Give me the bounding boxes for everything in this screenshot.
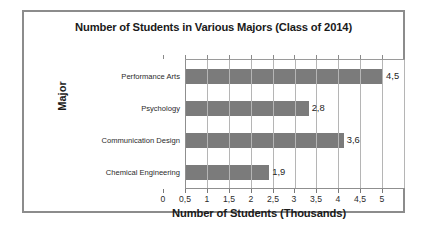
x-axis-tick-mark-top xyxy=(382,55,383,59)
gridline xyxy=(382,60,383,188)
x-axis-tick-mark xyxy=(338,189,339,193)
chart-frame: Number of Students in Various Majors (Cl… xyxy=(22,10,405,213)
x-axis-tick-label: 3 xyxy=(292,194,297,204)
bar xyxy=(186,165,269,180)
x-axis-tick-mark-top xyxy=(251,55,252,59)
gridline xyxy=(295,60,296,188)
y-axis-tick-label: Performance Arts xyxy=(66,72,180,81)
gridline xyxy=(360,60,361,188)
y-axis-tick-label: Communication Design xyxy=(66,136,180,145)
x-axis-tick-mark xyxy=(382,189,383,193)
gridline xyxy=(404,60,405,188)
x-axis-tick-label: 5 xyxy=(380,194,385,204)
bar xyxy=(186,69,383,84)
x-axis-tick-label: 4 xyxy=(336,194,341,204)
x-axis-tick-label: 1 xyxy=(205,194,210,204)
x-axis-tick-label: 1,5 xyxy=(223,194,235,204)
x-axis-tick-label: 0 xyxy=(161,194,166,204)
x-axis-tick-mark xyxy=(163,189,164,193)
x-axis-tick-label: 3,5 xyxy=(310,194,322,204)
gridline xyxy=(207,60,208,188)
x-axis-tick-mark xyxy=(273,189,274,193)
gridline xyxy=(316,60,317,188)
x-axis-tick-mark xyxy=(207,189,208,193)
y-axis-tick-label: Psychology xyxy=(66,104,180,113)
gridline xyxy=(338,60,339,188)
x-axis-tick-mark xyxy=(185,189,186,193)
plot-area: 4,52,83,61,9 xyxy=(185,60,404,188)
bar-value-label: 4,5 xyxy=(386,70,399,81)
x-axis-tick-mark-top xyxy=(316,55,317,59)
x-axis-tick-mark-top xyxy=(163,55,164,59)
x-axis-line xyxy=(185,188,405,189)
x-axis-tick-label: 4,5 xyxy=(354,194,366,204)
gridline xyxy=(251,60,252,188)
x-axis-tick-label: 2 xyxy=(249,194,254,204)
x-axis-tick-mark-top xyxy=(229,55,230,59)
x-axis-tick-mark-top xyxy=(360,55,361,59)
x-axis-title: Number of Students (Thousands) xyxy=(94,207,424,219)
gridline xyxy=(229,60,230,188)
x-axis-tick-mark-top xyxy=(207,55,208,59)
y-axis-tick-label: Chemical Engineering xyxy=(66,168,180,177)
bar xyxy=(186,133,344,148)
x-axis-tick-label: 2,5 xyxy=(267,194,279,204)
x-axis-tick-mark xyxy=(229,189,230,193)
x-axis-tick-mark xyxy=(251,189,252,193)
x-axis-tick-label: 0,5 xyxy=(179,194,191,204)
bar-value-label: 1,9 xyxy=(272,166,285,177)
x-axis-tick-mark xyxy=(316,189,317,193)
x-axis-tick-mark-top xyxy=(185,55,186,59)
y-axis-tick-labels: Performance ArtsPsychologyCommunication … xyxy=(66,60,180,188)
bar-value-label: 3,6 xyxy=(347,134,360,145)
x-axis-tick-mark-top xyxy=(338,55,339,59)
y-axis-line xyxy=(185,60,186,188)
bar-value-label: 2,8 xyxy=(312,102,325,113)
chart-title: Number of Students in Various Majors (Cl… xyxy=(24,21,403,33)
x-axis-tick-mark xyxy=(360,189,361,193)
x-axis-tick-mark-top xyxy=(273,55,274,59)
x-axis-tick-mark xyxy=(294,189,295,193)
bar xyxy=(186,101,309,116)
x-axis-tick-mark-top xyxy=(294,55,295,59)
